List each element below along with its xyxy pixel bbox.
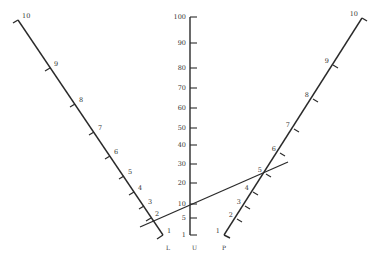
scale-u-tick-label: 60: [178, 104, 186, 112]
scale-p-tick-label: 5: [258, 166, 262, 174]
scale-l-tick: 8: [70, 96, 83, 107]
scale-u-tick-label: 70: [178, 84, 186, 92]
scale-p-tick-label: 1: [216, 227, 220, 235]
scale-l-tick: 10: [22, 12, 30, 20]
scale-l-tick-label: 8: [79, 96, 83, 104]
scale-p-tick-label: 6: [272, 145, 276, 153]
scale-l-label: L: [166, 244, 170, 251]
scale-l-tick-label: 7: [98, 124, 102, 132]
scale-p-tick-label: 10: [350, 10, 358, 18]
scale-u-tick: 20: [178, 179, 197, 187]
scale-u-tick: 100: [174, 13, 197, 21]
isopleth-line: [140, 162, 288, 227]
scale-u-tick-label: 5: [182, 214, 186, 222]
scale-u-tick-label: 100: [174, 13, 186, 21]
scale-l-tick-label: 2: [155, 210, 159, 218]
scale-l-tick: 6: [105, 148, 118, 159]
scale-u-tick: 70: [178, 84, 197, 92]
scale-u-tick: 40: [178, 141, 197, 149]
scale-u-tick: 50: [178, 124, 197, 132]
scale-p-tick-label: 3: [237, 198, 241, 206]
scale-l-tick-label: 9: [54, 60, 58, 68]
scale-u-tick-label: 30: [178, 160, 186, 168]
scale-u-tick-label: 50: [178, 124, 186, 132]
scale-u-tick-label: 90: [178, 39, 186, 47]
scale-l-tick-label: 3: [148, 198, 152, 206]
scale-p-tick-label: 2: [229, 211, 233, 219]
scale-p-tick: 1: [216, 227, 220, 235]
scale-l-tick-label: 4: [138, 184, 142, 192]
scale-u-tick: 10: [178, 200, 197, 208]
scale-l: 10987654321 L: [13, 12, 171, 251]
scale-l-tick: 1: [167, 227, 171, 235]
scale-p-tick: 10: [350, 10, 358, 18]
scale-l-tick-label: 10: [22, 12, 30, 20]
scale-p-tick-label: 7: [286, 121, 290, 129]
scale-u-tick: 30: [178, 160, 197, 168]
scale-p-tick-label: 9: [325, 57, 329, 65]
scale-l-tick-label: 5: [128, 168, 132, 176]
scale-p-tick-label: 8: [305, 91, 309, 99]
scale-p-tick-label: 4: [245, 184, 249, 192]
scale-l-tick: 7: [89, 124, 102, 135]
scale-u-tick: 80: [178, 64, 197, 72]
scale-u-tick-label: 80: [178, 64, 186, 72]
scale-u-tick: 90: [178, 39, 197, 47]
scale-p: 10987654321 P: [216, 10, 367, 251]
scale-l-tick-label: 6: [114, 148, 118, 156]
scale-p-label: P: [222, 244, 226, 251]
scale-u-label: U: [192, 244, 197, 251]
nomogram: 10987654321 L 10090807060504030201051 U …: [0, 0, 377, 259]
scale-l-tick-label: 1: [167, 227, 171, 235]
scale-u-tick: 60: [178, 104, 197, 112]
scale-u: 10090807060504030201051 U: [174, 13, 197, 251]
scale-u-tick-label: 40: [178, 141, 186, 149]
scale-u-tick-label: 20: [178, 179, 186, 187]
scale-u-tick-label: 1: [182, 231, 186, 239]
